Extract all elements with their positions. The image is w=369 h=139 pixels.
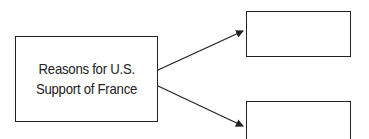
top-answer-box[interactable] — [246, 11, 351, 57]
arrow-to-bottom-box — [158, 86, 243, 126]
main-box-line-1: Reasons for U.S. — [38, 59, 134, 79]
main-concept-box: Reasons for U.S. Support of France — [15, 36, 158, 122]
arrow-to-top-box — [158, 31, 243, 70]
bottom-answer-box[interactable] — [246, 101, 351, 139]
main-box-line-2: Support of France — [36, 79, 137, 99]
